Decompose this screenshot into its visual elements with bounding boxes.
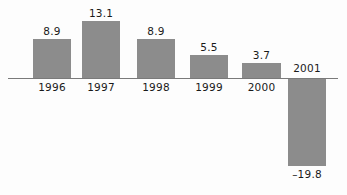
bar-1998 [137, 39, 175, 78]
bar-value-label-1998: 8.9 [137, 25, 175, 37]
category-label-1999: 1999 [190, 81, 228, 93]
bar-value-label-1999: 5.5 [190, 41, 228, 53]
bar-value-label-1996: 8.9 [33, 25, 71, 37]
bar-2000 [242, 63, 281, 78]
category-label-2000: 2000 [242, 81, 281, 93]
bar-1997 [82, 21, 120, 78]
bar-value-label-2001: –19.8 [288, 168, 326, 180]
bar-1999 [190, 55, 228, 78]
bar-value-label-1997: 13.1 [82, 7, 120, 19]
category-label-1997: 1997 [82, 81, 120, 93]
bar-1996 [33, 39, 71, 78]
bar-value-label-2000: 3.7 [242, 49, 281, 61]
category-label-1998: 1998 [137, 81, 175, 93]
category-label-2001: 2001 [288, 62, 326, 74]
category-label-1996: 1996 [33, 81, 71, 93]
bar-2001 [288, 79, 326, 166]
plot-area: 8.9 1996 13.1 1997 8.9 1998 5.5 1999 3.7… [0, 0, 347, 195]
bar-chart: 8.9 1996 13.1 1997 8.9 1998 5.5 1999 3.7… [0, 0, 347, 195]
